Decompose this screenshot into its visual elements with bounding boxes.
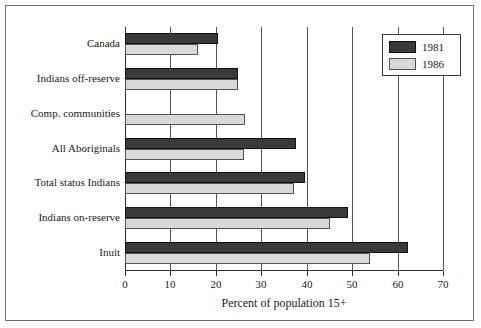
- legend-swatch-1986: [389, 58, 416, 70]
- bar-1986-total-status-indians: [125, 183, 294, 194]
- bar-1986-inuit: [125, 253, 370, 264]
- chart-figure: 010203040506070 CanadaIndians off-reserv…: [5, 5, 474, 321]
- legend-swatch-1981: [389, 41, 416, 53]
- category-label-indians-on-reserve: Indians on-reserve: [6, 211, 120, 223]
- x-tick-30: [261, 271, 262, 276]
- x-tick-label-40: 40: [292, 278, 322, 290]
- x-tick-0: [125, 271, 126, 276]
- bar-1981-all-aboriginals: [125, 138, 296, 149]
- category-label-all-aboriginals: All Aboriginals: [6, 142, 120, 154]
- category-label-canada: Canada: [6, 37, 120, 49]
- bar-1981-total-status-indians: [125, 172, 305, 183]
- bar-1981-indians-off-reserve: [125, 68, 238, 79]
- bar-1986-all-aboriginals: [125, 149, 244, 160]
- gridline-50: [352, 27, 353, 270]
- x-axis-title: Percent of population 15+: [125, 296, 443, 311]
- x-axis-line: [125, 270, 443, 271]
- bar-1981-indians-on-reserve: [125, 207, 348, 218]
- x-tick-label-10: 10: [155, 278, 185, 290]
- bar-1986-canada: [125, 44, 198, 55]
- bar-1986-indians-on-reserve: [125, 218, 330, 229]
- category-label-inuit: Inuit: [6, 246, 120, 258]
- legend-item-1981: 1981: [389, 40, 457, 54]
- legend-item-1986: 1986: [389, 57, 457, 71]
- x-tick-20: [216, 271, 217, 276]
- x-tick-label-20: 20: [201, 278, 231, 290]
- bar-1986-comp-communities: [125, 114, 245, 125]
- category-label-comp-communities: Comp. communities: [6, 107, 120, 119]
- gridline-40: [307, 27, 308, 270]
- category-label-total-status-indians: Total status Indians: [6, 176, 120, 188]
- bar-1981-inuit: [125, 242, 408, 253]
- x-tick-label-70: 70: [428, 278, 458, 290]
- x-tick-label-50: 50: [337, 278, 367, 290]
- x-tick-60: [398, 271, 399, 276]
- x-tick-10: [170, 271, 171, 276]
- x-tick-50: [352, 271, 353, 276]
- legend-label-1981: 1981: [422, 40, 444, 54]
- x-tick-70: [443, 271, 444, 276]
- bar-1981-canada: [125, 33, 218, 44]
- category-label-indians-off-reserve: Indians off-reserve: [6, 72, 120, 84]
- x-tick-label-0: 0: [110, 278, 140, 290]
- x-tick-label-30: 30: [246, 278, 276, 290]
- plot-area: 010203040506070 CanadaIndians off-reserv…: [6, 6, 475, 322]
- chart-legend: 1981 1986: [382, 34, 461, 76]
- x-tick-label-60: 60: [383, 278, 413, 290]
- bar-1986-indians-off-reserve: [125, 79, 238, 90]
- legend-label-1986: 1986: [422, 57, 444, 71]
- x-tick-40: [307, 271, 308, 276]
